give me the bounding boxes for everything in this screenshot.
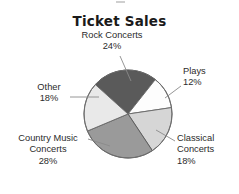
slice-label-country-music-concerts-name-2: Concerts <box>2 144 94 155</box>
slice-label-classical-concerts-name-1: Classical <box>177 133 237 144</box>
slice-label-rock-concerts-name: Rock Concerts <box>62 30 162 41</box>
slice-label-plays-percent: 12% <box>183 77 235 88</box>
slice-label-rock-concerts: Rock Concerts 24% <box>62 30 162 53</box>
slice-label-other-percent: 18% <box>24 93 74 104</box>
slice-label-country-music-concerts: Country Music Concerts 28% <box>2 133 94 167</box>
slice-label-classical-concerts-name-2: Concerts <box>177 144 237 155</box>
slice-label-classical-concerts-percent: 18% <box>177 156 237 167</box>
slice-label-classical-concerts: Classical Concerts 18% <box>177 133 237 167</box>
leader-line-plays <box>165 86 181 98</box>
slice-label-other-name: Other <box>24 82 74 93</box>
slice-label-plays-name: Plays <box>183 66 235 77</box>
slice-label-plays: Plays 12% <box>183 66 235 89</box>
pie-chart-figure: Ticket Sales Rock Concerts 24% Plays 12%… <box>0 0 239 194</box>
slice-label-other: Other 18% <box>24 82 74 105</box>
slice-label-rock-concerts-percent: 24% <box>62 41 162 52</box>
slice-label-country-music-concerts-name-1: Country Music <box>2 133 94 144</box>
slice-label-country-music-concerts-percent: 28% <box>2 156 94 167</box>
